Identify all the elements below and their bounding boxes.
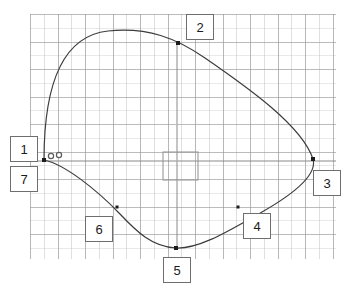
callout-label-text: 4 (253, 220, 260, 233)
center-dot-0 (176, 124, 178, 126)
control-point-3[interactable] (311, 157, 315, 161)
control-point-6[interactable] (116, 206, 119, 209)
control-point-7[interactable] (42, 158, 46, 162)
selection-box-group (163, 152, 198, 180)
control-point-4[interactable] (237, 206, 240, 209)
callout-label-5[interactable]: 5 (163, 257, 191, 283)
control-handle-group (48, 152, 61, 158)
center-dot-group (176, 124, 214, 162)
control-point-5[interactable] (174, 246, 178, 250)
callout-label-text: 6 (95, 223, 102, 236)
handle-a-icon[interactable] (48, 153, 53, 158)
control-point-group (42, 41, 315, 250)
center-dot-2 (176, 160, 178, 162)
spline-editor-canvas[interactable]: 1723456 (0, 0, 346, 291)
callout-label-text: 7 (20, 173, 27, 186)
axes-group (31, 43, 336, 249)
vector-drawing-layer (0, 0, 346, 291)
handle-b-icon[interactable] (56, 152, 61, 157)
center-dot-1 (212, 160, 214, 162)
callout-label-1[interactable]: 1 (10, 136, 38, 162)
control-point-2[interactable] (176, 41, 180, 45)
callout-label-3[interactable]: 3 (313, 170, 341, 196)
callout-label-text: 3 (323, 177, 330, 190)
selection-box[interactable] (163, 152, 198, 180)
callout-label-4[interactable]: 4 (243, 213, 271, 239)
callout-label-7[interactable]: 7 (10, 166, 38, 192)
callout-label-2[interactable]: 2 (186, 14, 214, 40)
callout-label-text: 1 (20, 143, 27, 156)
callout-label-text: 5 (173, 264, 180, 277)
callout-label-text: 2 (196, 21, 203, 34)
callout-label-6[interactable]: 6 (85, 216, 113, 242)
